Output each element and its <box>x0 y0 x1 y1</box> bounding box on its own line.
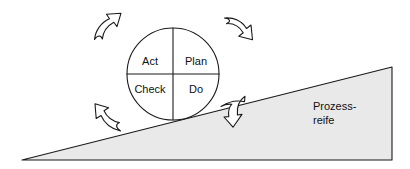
pdca-wheel: Act Plan Check Do <box>127 28 219 120</box>
arrow-top-left-icon <box>95 13 122 39</box>
ramp-label-line2: reife <box>313 114 334 126</box>
pdca-quadrant-act: Act <box>142 55 158 67</box>
diagram-canvas: Prozess- reife Act Plan Check Do <box>0 0 410 169</box>
pdca-quadrant-plan: Plan <box>185 55 207 67</box>
arrow-up-right-glyph <box>95 13 122 39</box>
ramp-label-line1: Prozess- <box>313 100 357 112</box>
pdca-quadrant-check: Check <box>134 83 166 95</box>
arrow-bottom-left-icon <box>95 104 121 131</box>
arrow-down-right-glyph <box>225 18 253 40</box>
pdca-quadrant-do: Do <box>189 83 203 95</box>
arrow-top-right-icon <box>225 18 253 40</box>
arrow-up-left-glyph <box>95 104 121 131</box>
pdca-prozessreife-diagram: Prozess- reife Act Plan Check Do <box>0 0 410 169</box>
